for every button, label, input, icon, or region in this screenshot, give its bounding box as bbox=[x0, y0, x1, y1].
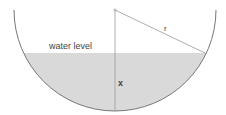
bowl-diagram: water level r x bbox=[0, 0, 226, 115]
water-fill bbox=[0, 53, 226, 115]
depth-label: x bbox=[118, 78, 123, 88]
radius-line bbox=[115, 10, 205, 53]
water-level-label: water level bbox=[48, 41, 92, 51]
radius-label: r bbox=[164, 24, 167, 33]
